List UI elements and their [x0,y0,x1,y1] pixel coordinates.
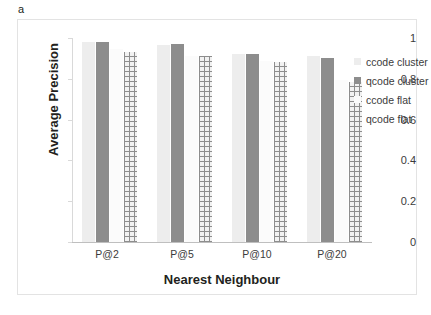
x-tick-label-p5: P@5 [147,248,217,260]
bar-ccode-flat [110,49,123,242]
legend-item-ccode-flat: ccode flat [354,91,431,108]
bar-group-p5 [147,38,222,242]
y-tick-label: 0.4 [382,154,416,166]
legend-swatch-icon [354,96,361,103]
bar-qcode-flat [124,52,137,242]
bar-ccode-flat [335,80,348,242]
bar-qcode-cluster [171,44,184,242]
x-axis-line [72,242,372,243]
bar-ccode-cluster [232,54,245,242]
bar-qcode-flat [274,62,287,242]
chart-figure: a Average Precision 1 0.8 0.6 0.4 0.2 0 [0,0,431,315]
legend-label: ccode cluster [366,56,428,68]
chart-legend: ccode cluster qcode cluster ccode flat q… [354,53,431,129]
legend-item-qcode-flat: qcode flat [354,110,431,127]
bar-ccode-flat [260,61,273,242]
bar-qcode-flat [199,56,212,242]
legend-swatch-icon [354,58,361,65]
bar-ccode-cluster [307,56,320,242]
bar-qcode-cluster [321,58,334,242]
legend-label: ccode flat [366,94,411,106]
bar-qcode-cluster [96,42,109,242]
bar-group-p10 [222,38,297,242]
panel-label: a [18,3,24,15]
bar-ccode-cluster [157,45,170,242]
y-axis-title: Average Precision [46,20,61,180]
bar-groups [72,38,372,242]
x-tick-label-p10: P@10 [222,248,292,260]
y-tick-label: 1 [382,32,416,44]
legend-item-ccode-cluster: ccode cluster [354,53,431,70]
bar-ccode-cluster [82,42,95,242]
legend-label: qcode flat [366,113,412,125]
y-tick-label: 0.2 [382,195,416,207]
legend-item-qcode-cluster: qcode cluster [354,72,431,89]
y-tick-label: 0 [382,236,416,248]
y-tick-mark [68,242,72,243]
legend-swatch-icon [354,77,361,84]
bar-group-p2 [72,38,147,242]
bar-qcode-cluster [246,54,259,242]
bar-ccode-flat [185,56,198,242]
x-axis-title: Nearest Neighbour [72,272,372,287]
x-tick-label-p20: P@20 [297,248,367,260]
chart-frame: Average Precision 1 0.8 0.6 0.4 0.2 0 [17,19,417,295]
legend-swatch-icon [354,115,361,122]
legend-label: qcode cluster [366,75,428,87]
x-tick-label-p2: P@2 [72,248,142,260]
